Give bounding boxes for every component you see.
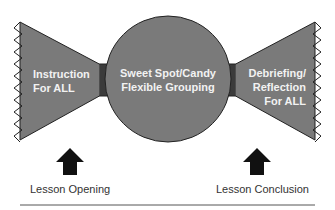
label-line: Instruction: [33, 67, 90, 81]
arrow-up-icon: [56, 148, 84, 175]
label-line: For ALL: [236, 94, 306, 108]
label-line: Sweet Spot/Candy: [108, 66, 228, 80]
lesson-opening-caption: Lesson Opening: [30, 183, 110, 195]
label-line: Reflection: [236, 80, 306, 94]
center-label: Sweet Spot/Candy Flexible Grouping: [108, 66, 228, 94]
label-line: For ALL: [33, 81, 90, 95]
left-wing-label: Instruction For ALL: [33, 67, 90, 95]
right-wing-label: Debriefing/ Reflection For ALL: [236, 66, 306, 108]
label-line: Debriefing/: [236, 66, 306, 80]
label-line: Flexible Grouping: [108, 80, 228, 94]
arrow-up-icon: [243, 148, 271, 175]
lesson-conclusion-caption: Lesson Conclusion: [216, 183, 309, 195]
